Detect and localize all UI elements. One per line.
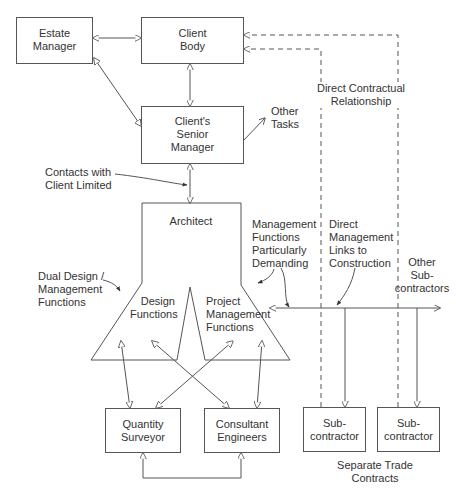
direct-mgmt-links-line1: Direct [329, 218, 393, 231]
dual-design-line2: Management [38, 283, 104, 296]
subcontractor-2-label: Sub- contractor [377, 417, 440, 443]
direct-mgmt-links-line4: Construction [329, 257, 393, 270]
project-management-label: Project Management Functions [206, 295, 270, 334]
subcontractor-1-line1: Sub- [303, 417, 366, 430]
mgmt-demanding-line2: Functions [252, 231, 316, 244]
estate-manager-line1: Estate [16, 27, 93, 40]
project-management-line3: Functions [206, 321, 270, 334]
direct-mgmt-links-line3: Links to [329, 244, 393, 257]
subcontractor-1-label: Sub- contractor [303, 417, 366, 443]
architect-label: Architect [141, 215, 241, 228]
direct-mgmt-links-annotation: Direct Management Links to Construction [329, 218, 393, 270]
separate-trade-annotation: Separate Trade Contracts [330, 459, 420, 485]
design-functions-line2: Functions [130, 308, 175, 321]
consultant-engineers-line1: Consultant [204, 418, 280, 431]
quantity-surveyor-line1: Quantity [105, 418, 181, 431]
quantity-surveyor-label: Quantity Surveyor [105, 418, 181, 444]
client-body-line2: Body [141, 40, 244, 53]
design-functions-label: Design Functions [130, 295, 175, 321]
contacts-limited-annotation: Contacts with Client Limited [45, 166, 112, 192]
quantity-surveyor-line2: Surveyor [105, 431, 181, 444]
senior-manager-label: Client's Senior Manager [141, 115, 244, 154]
design-functions-line1: Design [130, 295, 175, 308]
mgmt-demanding-line4: Demanding [252, 257, 316, 270]
mgmt-demanding-annotation: Management Functions Particularly Demand… [252, 218, 316, 270]
dual-design-line1: Dual Design / [38, 270, 104, 283]
estate-manager-label: Estate Manager [16, 27, 93, 53]
direct-contractual-line1: Direct Contractual [316, 82, 406, 95]
senior-manager-line1: Client's [141, 115, 244, 128]
other-subcontractors-line2: Sub- [392, 269, 452, 282]
other-tasks-line1: Other [271, 105, 299, 118]
direct-contractual-annotation: Direct Contractual Relationship [316, 82, 406, 108]
client-body-label: Client Body [141, 27, 244, 53]
contacts-limited-line2: Client Limited [45, 179, 112, 192]
consultant-engineers-line2: Engineers [204, 431, 280, 444]
client-body-line1: Client [141, 27, 244, 40]
other-subcontractors-line3: contractors [392, 282, 452, 295]
other-tasks-annotation: Other Tasks [271, 105, 299, 131]
other-subcontractors-line1: Other [392, 256, 452, 269]
other-subcontractors-annotation: Other Sub- contractors [392, 256, 452, 295]
project-management-line2: Management [206, 308, 270, 321]
mgmt-demanding-line1: Management [252, 218, 316, 231]
dual-design-annotation: Dual Design / Management Functions [38, 270, 104, 309]
subcontractor-2-line1: Sub- [377, 417, 440, 430]
separate-trade-line2: Contracts [330, 472, 420, 485]
consultant-engineers-label: Consultant Engineers [204, 418, 280, 444]
other-tasks-line2: Tasks [271, 118, 299, 131]
direct-contractual-line2: Relationship [316, 95, 406, 108]
subcontractor-1-line2: contractor [303, 430, 366, 443]
senior-manager-line2: Senior [141, 128, 244, 141]
estate-manager-line2: Manager [16, 40, 93, 53]
direct-mgmt-links-line2: Management [329, 231, 393, 244]
mgmt-demanding-line3: Particularly [252, 244, 316, 257]
subcontractor-2-line2: contractor [377, 430, 440, 443]
separate-trade-line1: Separate Trade [330, 459, 420, 472]
contacts-limited-line1: Contacts with [45, 166, 112, 179]
senior-manager-line3: Manager [141, 141, 244, 154]
dual-design-line3: Functions [38, 296, 104, 309]
project-management-line1: Project [206, 295, 270, 308]
